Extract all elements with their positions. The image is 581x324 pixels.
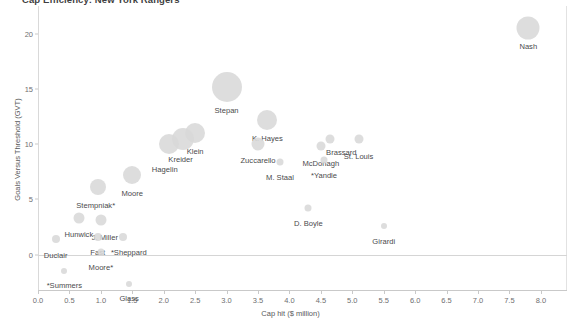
data-point-bubble[interactable] bbox=[517, 17, 540, 40]
x-tick-mark bbox=[195, 291, 196, 294]
x-tick-mark bbox=[509, 291, 510, 294]
data-point-bubble[interactable] bbox=[73, 213, 84, 224]
x-tick-label: 2.0 bbox=[158, 296, 168, 305]
y-tick-label: 0 bbox=[29, 250, 33, 259]
data-point-bubble[interactable] bbox=[90, 179, 106, 195]
y-axis-title: Goals Versus Threshold (GVT) bbox=[13, 70, 22, 230]
x-tick-mark bbox=[541, 291, 542, 294]
data-point-bubble[interactable] bbox=[212, 72, 242, 102]
data-point-bubble[interactable] bbox=[119, 233, 127, 241]
x-tick-label: 6.5 bbox=[441, 296, 451, 305]
data-point-label: D. Boyle bbox=[294, 219, 323, 228]
data-point-bubble[interactable] bbox=[321, 156, 328, 163]
data-point-label: Zuccarello bbox=[240, 156, 275, 165]
x-tick-label: 7.0 bbox=[473, 296, 483, 305]
data-point-label: *Summers bbox=[47, 281, 82, 290]
data-point-label: M. Staal bbox=[266, 173, 294, 182]
x-tick-label: 3.0 bbox=[221, 296, 231, 305]
y-tick-label: 10 bbox=[25, 140, 33, 149]
x-tick-label: 6.0 bbox=[410, 296, 420, 305]
data-point-bubble[interactable] bbox=[316, 142, 325, 151]
y-tick-label: 15 bbox=[25, 84, 33, 93]
data-point-bubble[interactable] bbox=[252, 138, 265, 151]
x-tick-mark bbox=[258, 291, 259, 294]
x-tick-mark bbox=[38, 291, 39, 294]
data-point-bubble[interactable] bbox=[126, 281, 132, 287]
data-point-label: Glass bbox=[119, 294, 138, 303]
x-tick-label: 5.5 bbox=[378, 296, 388, 305]
plot-area: NashStepanK. HayesKleinKreiderHagelinZuc… bbox=[38, 6, 566, 290]
data-point-label: Duclair bbox=[44, 251, 68, 260]
x-tick-label: 8.0 bbox=[536, 296, 546, 305]
x-tick-mark bbox=[384, 291, 385, 294]
data-point-bubble[interactable] bbox=[326, 134, 335, 143]
x-tick-mark bbox=[321, 291, 322, 294]
data-point-label: St. Louis bbox=[344, 152, 374, 161]
x-tick-label: 0.5 bbox=[64, 296, 74, 305]
y-tick-label: 20 bbox=[25, 29, 33, 38]
x-tick-label: 0.0 bbox=[33, 296, 43, 305]
chart-title: Cap Efficiency: New York Rangers bbox=[22, 0, 180, 5]
data-point-label: Girardi bbox=[372, 237, 395, 246]
x-tick-mark bbox=[227, 291, 228, 294]
x-tick-label: 2.5 bbox=[190, 296, 200, 305]
data-point-label: Hunwick bbox=[64, 230, 93, 239]
data-point-label: Stepan bbox=[215, 106, 239, 115]
y-tick-label: 5 bbox=[29, 195, 33, 204]
x-tick-mark bbox=[352, 291, 353, 294]
data-point-bubble[interactable] bbox=[52, 235, 60, 243]
x-tick-label: 7.5 bbox=[504, 296, 514, 305]
x-tick-label: 5.0 bbox=[347, 296, 357, 305]
x-tick-mark bbox=[101, 291, 102, 294]
data-point-label: *Yandle bbox=[311, 171, 337, 180]
x-tick-mark bbox=[447, 291, 448, 294]
data-point-label: Hagelin bbox=[152, 165, 178, 174]
data-point-label: Kreider bbox=[168, 155, 192, 164]
data-point-label: Stempniak* bbox=[76, 201, 115, 210]
x-tick-mark bbox=[164, 291, 165, 294]
x-axis-title: Cap hit ($ million) bbox=[0, 309, 581, 318]
x-tick-mark bbox=[415, 291, 416, 294]
data-point-bubble[interactable] bbox=[354, 134, 363, 143]
data-point-label: *Sheppard bbox=[111, 248, 147, 257]
x-tick-label: 1.0 bbox=[96, 296, 106, 305]
data-point-bubble[interactable] bbox=[257, 110, 277, 130]
x-axis-line bbox=[38, 290, 567, 291]
data-point-bubble[interactable] bbox=[95, 215, 106, 226]
data-point-bubble[interactable] bbox=[381, 223, 387, 229]
data-point-bubble[interactable] bbox=[94, 233, 102, 241]
x-tick-mark bbox=[478, 291, 479, 294]
plot-right-border bbox=[566, 6, 567, 290]
x-tick-label: 4.5 bbox=[316, 296, 326, 305]
x-tick-label: 4.0 bbox=[284, 296, 294, 305]
bubble-chart: Cap Efficiency: New York Rangers 0510152… bbox=[0, 0, 581, 324]
data-point-label: Moore* bbox=[89, 263, 113, 272]
data-point-bubble[interactable] bbox=[305, 205, 312, 212]
data-point-label: Nash bbox=[519, 42, 537, 51]
data-point-bubble[interactable] bbox=[159, 134, 179, 154]
data-point-bubble[interactable] bbox=[123, 166, 141, 184]
data-point-bubble[interactable] bbox=[61, 268, 67, 274]
x-tick-mark bbox=[69, 291, 70, 294]
data-point-bubble[interactable] bbox=[97, 249, 104, 256]
x-tick-label: 3.5 bbox=[253, 296, 263, 305]
data-point-label: Moore bbox=[122, 189, 144, 198]
data-point-bubble[interactable] bbox=[277, 158, 284, 165]
x-tick-mark bbox=[289, 291, 290, 294]
